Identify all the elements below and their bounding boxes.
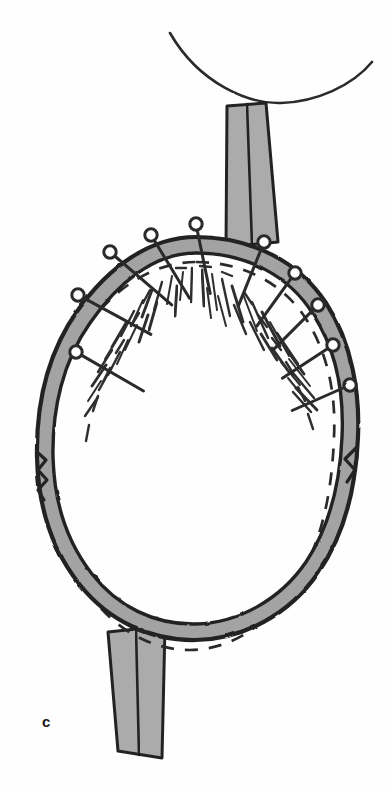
pin-head [289, 267, 301, 279]
fiber-stroke [175, 286, 177, 316]
lower-rod [108, 626, 165, 758]
pin-head [72, 289, 84, 301]
pin-head [344, 379, 356, 391]
pin-head [104, 246, 116, 258]
pin-head [258, 236, 270, 248]
pin-head [70, 346, 82, 358]
pin-head [312, 299, 324, 311]
pin-head [190, 218, 202, 230]
panel-label-c: c [42, 714, 50, 729]
figure-panel-c: c [0, 0, 389, 793]
pin-head [145, 229, 157, 241]
pin-head [327, 339, 339, 351]
specimen-illustration [0, 0, 389, 793]
fiber-stroke [202, 270, 204, 306]
